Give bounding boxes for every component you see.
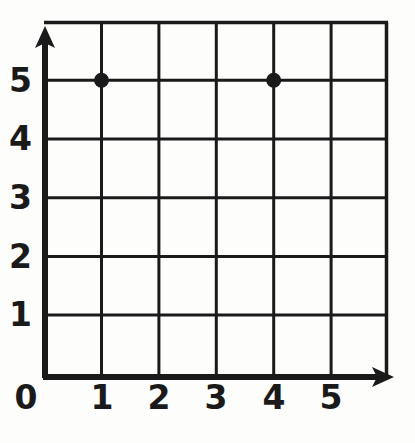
y-tick-label-1: 1	[2, 298, 32, 331]
x-tick-label-3: 3	[199, 381, 233, 414]
data-point-marker[interactable]	[266, 73, 281, 88]
plot-canvas	[0, 0, 415, 443]
x-tick-label-2: 2	[142, 381, 176, 414]
y-tick-label-2: 2	[2, 240, 32, 273]
data-point-marker[interactable]	[94, 73, 109, 88]
y-tick-label-4: 4	[2, 122, 32, 155]
coordinate-grid-figure: 5 4 3 2 1 0 1 2 3 4 5	[0, 0, 415, 443]
x-tick-label-4: 4	[257, 381, 291, 414]
y-tick-label-5: 5	[2, 64, 32, 97]
x-tick-label-5: 5	[314, 381, 348, 414]
y-tick-label-3: 3	[2, 181, 32, 214]
x-tick-label-1: 1	[85, 381, 119, 414]
x-tick-label-0: 0	[9, 381, 43, 414]
